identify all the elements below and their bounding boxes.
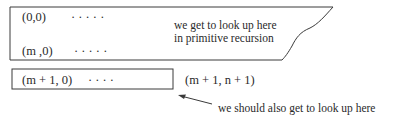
- diagram-shapes: [0, 0, 393, 116]
- target-cell-label: (m + 1, n + 1): [185, 74, 255, 87]
- annotation-lookup-note: we should also get to look up here: [218, 103, 375, 115]
- diagram-canvas: (0,0) · · · · · (m ,0) · · · · · we get …: [0, 0, 393, 116]
- cell-label-m-0: (m ,0): [22, 45, 53, 58]
- cell-label-m-plus-1-0: (m + 1, 0): [22, 74, 72, 87]
- annotation-primitive-line1: we get to look up here: [174, 20, 277, 32]
- row-0-dots: · · · · ·: [71, 11, 104, 24]
- primitive-recursion-region: [10, 7, 333, 60]
- arrow-line: [181, 96, 212, 104]
- row-m-dots: · · · · ·: [74, 45, 107, 58]
- annotation-primitive-line2: in primitive recursion: [174, 33, 274, 45]
- row-m-plus-1-dots: · · · ·: [88, 74, 114, 87]
- cell-label-0-0: (0,0): [22, 11, 46, 24]
- arrow-head-icon: [178, 95, 186, 100]
